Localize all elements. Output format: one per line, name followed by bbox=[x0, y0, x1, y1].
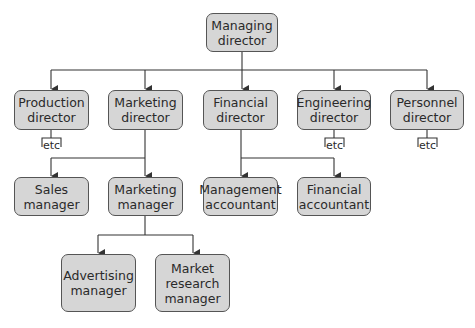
node-sales-manager: Salesmanager bbox=[14, 177, 89, 216]
node-label: accountant bbox=[299, 197, 369, 212]
node-label: Advertising bbox=[63, 268, 134, 283]
node-label: director bbox=[114, 110, 176, 125]
node-label: director bbox=[211, 33, 272, 48]
etc-label-engineering: etc bbox=[326, 140, 343, 152]
node-label: director bbox=[396, 110, 457, 125]
node-label: Sales bbox=[23, 182, 79, 197]
node-label: accountant bbox=[199, 197, 281, 212]
node-label: director bbox=[297, 110, 372, 125]
node-label: manager bbox=[164, 291, 220, 306]
node-personnel-director: Personneldirector bbox=[390, 90, 464, 130]
node-marketing-manager: Marketingmanager bbox=[108, 177, 183, 216]
node-label: Production bbox=[18, 95, 85, 110]
node-label: Engineering bbox=[297, 95, 372, 110]
node-label: Financial bbox=[213, 95, 268, 110]
node-financial-accountant: Financialaccountant bbox=[297, 177, 371, 216]
node-production-director: Productiondirector bbox=[14, 90, 89, 130]
node-financial-director: Financialdirector bbox=[203, 90, 278, 130]
node-label: Marketing bbox=[114, 95, 176, 110]
node-label: manager bbox=[23, 197, 79, 212]
node-label: Marketing bbox=[114, 182, 176, 197]
etc-label-production: etc bbox=[43, 140, 60, 152]
node-market-research-manager: Marketresearchmanager bbox=[155, 254, 230, 312]
node-label: Personnel bbox=[396, 95, 457, 110]
node-label: manager bbox=[63, 283, 134, 298]
node-label: Financial bbox=[299, 182, 369, 197]
etc-label-personnel: etc bbox=[419, 140, 436, 152]
node-engineering-director: Engineeringdirector bbox=[297, 90, 371, 130]
node-label: Management bbox=[199, 182, 281, 197]
node-label: director bbox=[213, 110, 268, 125]
node-managing-director: Managingdirector bbox=[206, 13, 278, 52]
node-label: manager bbox=[114, 197, 176, 212]
node-label: research bbox=[164, 276, 220, 291]
node-label: director bbox=[18, 110, 85, 125]
node-marketing-director: Marketingdirector bbox=[108, 90, 183, 130]
node-advertising-manager: Advertisingmanager bbox=[61, 254, 136, 312]
node-management-accountant: Managementaccountant bbox=[203, 177, 278, 216]
node-label: Managing bbox=[211, 18, 272, 33]
node-label: Market bbox=[164, 261, 220, 276]
